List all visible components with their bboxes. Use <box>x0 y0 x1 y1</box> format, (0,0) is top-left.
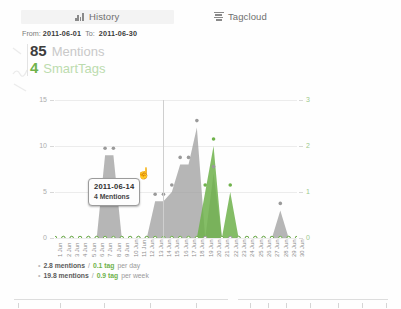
y-axis-left-tickmark <box>50 146 54 147</box>
chart-series-layer <box>55 100 297 238</box>
x-axis-tick-label: 23 Jun <box>241 240 247 257</box>
y-axis-right-tick: 3 <box>306 96 322 103</box>
x-axis-tick-label: 20 Jun <box>216 240 222 257</box>
x-axis-tick-label: 17 Jun <box>191 240 197 257</box>
y-axis-left-tickmark <box>50 238 54 239</box>
chart-point-mentions[interactable] <box>103 146 107 150</box>
chart-point-mentions[interactable] <box>195 119 199 123</box>
x-axis-tick-label: 4 Jun <box>82 243 88 257</box>
chart-x-axis-labels: 1 Jun2 Jun3 Jun4 Jun5 Jun6 Jun7 Jun8 Jun… <box>55 231 297 259</box>
rate-stat-row: •2.8 mentions/0.1 tagper day <box>38 260 149 270</box>
x-axis-tick-label: 7 Jun <box>107 243 113 257</box>
date-range-from-label: From: <box>22 29 41 38</box>
page-tick <box>18 303 19 308</box>
stat-tag-rate: 0.1 tag <box>93 262 115 269</box>
x-axis-tick-label: 21 Jun <box>224 240 230 257</box>
x-axis-tick-label: 15 Jun <box>174 240 180 257</box>
chart-tooltip: 2011-06-14 4 Mentions <box>88 178 140 206</box>
stat-period: per day <box>117 262 140 269</box>
chart-point-mentions[interactable] <box>153 192 157 196</box>
chart-point-smarttags[interactable] <box>203 183 207 187</box>
y-axis-right-tick: 2 <box>306 142 322 149</box>
summary-divider <box>27 44 28 76</box>
x-axis-tick-label: 29 Jun <box>291 240 297 257</box>
summary-row-mentions: 85 Mentions <box>30 42 230 59</box>
y-axis-left-tick: 0 <box>31 234 47 241</box>
x-axis-tick-label: 25 Jun <box>258 240 264 257</box>
tooltip-value: 4 Mentions <box>94 192 134 201</box>
page-tick <box>268 303 269 308</box>
bullet-icon: • <box>38 272 40 279</box>
y-axis-left-tick: 10 <box>31 142 47 149</box>
y-axis-right-tickmark <box>299 100 303 101</box>
mentions-label: Mentions <box>52 44 105 59</box>
date-range-from-value[interactable]: 2011-06-01 <box>43 29 81 38</box>
chart-point-mentions[interactable] <box>170 183 174 187</box>
x-axis-tick-label: 18 Jun <box>199 240 205 257</box>
chart-point-mentions[interactable] <box>112 146 116 150</box>
chart-point-mentions[interactable] <box>187 156 191 160</box>
bar-chart-icon <box>75 12 85 21</box>
page-tick <box>250 303 251 308</box>
x-axis-tick-label: 12 Jun <box>149 240 155 257</box>
page-tick <box>150 303 151 308</box>
x-axis-tick-label: 14 Jun <box>166 240 172 257</box>
summary-row-smarttags: 4 SmartTags <box>30 59 230 76</box>
mouse-cursor-icon: ☝ <box>137 168 151 179</box>
chart-point-smarttags[interactable] <box>228 183 232 187</box>
page-divider-left <box>14 299 228 300</box>
chart-point-mentions[interactable] <box>212 165 216 169</box>
date-range-to-label: To: <box>83 29 97 38</box>
mentions-count: 85 <box>30 42 47 59</box>
bullet-icon: • <box>38 262 40 269</box>
date-range-to-value[interactable]: 2011-06-30 <box>99 29 137 38</box>
x-axis-tick-label: 11 Jun <box>141 240 147 257</box>
stat-mentions-rate: 19.8 mentions <box>43 272 88 279</box>
x-axis-tick-label: 8 Jun <box>116 243 122 257</box>
x-axis-tick-label: 26 Jun <box>266 240 272 257</box>
chart-cursor-line <box>163 100 164 238</box>
date-range: From: 2011-06-01 To: 2011-06-30 <box>22 29 137 38</box>
x-axis-tick-label: 1 Jun <box>57 243 63 257</box>
page-tick <box>196 303 197 308</box>
y-axis-right-tickmark <box>299 192 303 193</box>
x-axis-tick-label: 10 Jun <box>133 240 139 257</box>
x-axis-tick-label: 2 Jun <box>66 243 72 257</box>
rate-stat-row: •19.8 mentions/0.9 tagper week <box>38 270 149 280</box>
page-divider-right <box>238 299 388 300</box>
tab-tagcloud[interactable]: Tagcloud <box>214 7 267 25</box>
stat-mentions-rate: 2.8 mentions <box>43 262 85 269</box>
history-chart[interactable]: 0510150123 <box>0 88 401 238</box>
page-tick <box>104 303 105 308</box>
chart-plot-area[interactable]: 0510150123 <box>55 100 297 238</box>
x-axis-tick-label: 13 Jun <box>158 240 164 257</box>
stat-separator: / <box>92 272 94 279</box>
x-axis-tick-label: 22 Jun <box>233 240 239 257</box>
tab-history-label: History <box>89 11 119 22</box>
y-axis-right-tick: 0 <box>306 234 322 241</box>
page-tick <box>60 303 61 308</box>
x-axis-tick-label: 19 Jun <box>208 240 214 257</box>
x-axis-tick-label: 28 Jun <box>283 240 289 257</box>
chart-point-mentions[interactable] <box>178 156 182 160</box>
chart-point-smarttags[interactable] <box>212 137 216 141</box>
x-axis-tick-label: 16 Jun <box>183 240 189 257</box>
page-tick <box>286 303 287 308</box>
tab-tagcloud-label: Tagcloud <box>228 11 267 22</box>
page-tick <box>310 303 311 308</box>
sparkline-decoration <box>12 44 28 92</box>
y-axis-left-tick: 5 <box>31 188 47 195</box>
x-axis-tick-label: 6 Jun <box>99 243 105 257</box>
y-axis-left-tick: 15 <box>31 96 47 103</box>
history-panel: History Tagcloud From: 2011-06-01 To: 20… <box>0 0 401 309</box>
stat-separator: / <box>88 262 90 269</box>
smarttags-label: SmartTags <box>43 61 105 76</box>
chart-point-mentions[interactable] <box>279 202 283 206</box>
page-tick <box>338 303 339 308</box>
tagcloud-icon <box>214 12 224 21</box>
y-axis-right-tick: 1 <box>306 188 322 195</box>
tab-history[interactable]: History <box>75 7 119 25</box>
page-tick <box>362 303 363 308</box>
x-axis-tick-label: 5 Jun <box>91 243 97 257</box>
smarttags-count: 4 <box>30 59 38 76</box>
